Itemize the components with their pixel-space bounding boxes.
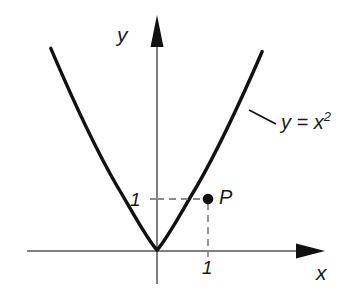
y-axis-tick-label-1: 1 — [130, 190, 141, 209]
x-axis-arrowhead — [296, 244, 325, 259]
curve-label-leader-line — [249, 110, 276, 124]
point-p-label: P — [219, 187, 232, 207]
point-p-marker — [203, 194, 214, 205]
curve-equation-exponent: 2 — [324, 109, 331, 124]
parabola-figure: y x y = x2 P 1 1 — [0, 0, 350, 295]
curve-equation-base: y = x — [281, 111, 324, 133]
x-axis-label: x — [316, 262, 327, 283]
curve-equation-label: y = x2 — [281, 110, 331, 132]
x-axis-tick-label-1: 1 — [202, 258, 213, 277]
y-axis-label: y — [117, 24, 128, 45]
graph-canvas — [0, 0, 350, 295]
y-axis-arrowhead — [151, 15, 164, 47]
